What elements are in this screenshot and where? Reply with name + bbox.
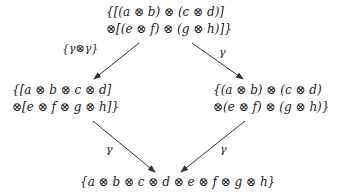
node-top: {[(a ⊗ b) ⊗ (c ⊗ d)] ⊗[(e ⊗ f) ⊗ (g ⊗ h)… [106,4,232,38]
node-left: {[a ⊗ b ⊗ c ⊗ d] ⊗[e ⊗ f ⊗ g ⊗ h]} [12,82,119,116]
arrow-left-to-bottom [93,121,155,172]
edge-label-right-bottom: γ [220,143,227,156]
node-top-line-1: {[(a ⊗ b) ⊗ (c ⊗ d)] [106,4,232,21]
node-right: {(a ⊗ b) ⊗ (c ⊗ d) ⊗(e ⊗ f) ⊗ (g ⊗ h)} [213,82,329,116]
edge-label-top-left: {γ⊗γ} [62,42,98,55]
node-right-line-1: {(a ⊗ b) ⊗ (c ⊗ d) [213,82,329,99]
node-left-line-2: ⊗[e ⊗ f ⊗ g ⊗ h]} [12,99,119,116]
node-right-line-2: ⊗(e ⊗ f) ⊗ (g ⊗ h)} [213,99,329,116]
edge-label-left-bottom: γ [106,143,113,156]
edge-label-top-right: γ [219,46,226,59]
node-bottom-line-1: {a ⊗ b ⊗ c ⊗ d ⊗ e ⊗ f ⊗ g ⊗ h} [80,174,275,191]
node-left-line-1: {[a ⊗ b ⊗ c ⊗ d] [12,82,119,99]
node-bottom: {a ⊗ b ⊗ c ⊗ d ⊗ e ⊗ f ⊗ g ⊗ h} [80,174,275,191]
arrow-top-to-left [94,43,139,79]
node-top-line-2: ⊗[(e ⊗ f) ⊗ (g ⊗ h)]} [106,21,232,38]
arrow-top-to-right [192,43,243,79]
arrow-right-to-bottom [181,121,245,172]
